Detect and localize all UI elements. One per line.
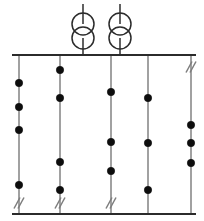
feeder-3-breaker-2-icon[interactable] — [107, 138, 114, 145]
feeder-1-breaker-2-icon[interactable] — [15, 103, 22, 110]
feeder-2-breaker-1-icon[interactable] — [56, 66, 63, 73]
feeder-layer — [19, 55, 191, 214]
feeder-3-breaker-3-icon[interactable] — [107, 167, 114, 174]
single-line-diagram — [0, 0, 204, 221]
feeder-2-breaker-2-icon[interactable] — [56, 94, 63, 101]
feeder-4-breaker-3-icon[interactable] — [144, 186, 151, 193]
feeder-1-breaker-3-icon[interactable] — [15, 126, 22, 133]
feeder-2-breaker-4-icon[interactable] — [56, 186, 63, 193]
feeder-1-breaker-1-icon[interactable] — [15, 79, 22, 86]
symbol-layer — [14, 62, 196, 209]
feeder-3-breaker-1-icon[interactable] — [107, 88, 114, 95]
schematic-canvas — [0, 0, 204, 221]
busbar-layer — [12, 55, 196, 214]
transformer-layer — [72, 4, 131, 55]
feeder-5-breaker-1-icon[interactable] — [187, 121, 194, 128]
feeder-1-breaker-4-icon[interactable] — [15, 181, 22, 188]
feeder-4-breaker-1-icon[interactable] — [144, 94, 151, 101]
feeder-5-breaker-2-icon[interactable] — [187, 139, 194, 146]
feeder-2-breaker-3-icon[interactable] — [56, 158, 63, 165]
feeder-5-breaker-3-icon[interactable] — [187, 159, 194, 166]
feeder-4-breaker-2-icon[interactable] — [144, 139, 151, 146]
